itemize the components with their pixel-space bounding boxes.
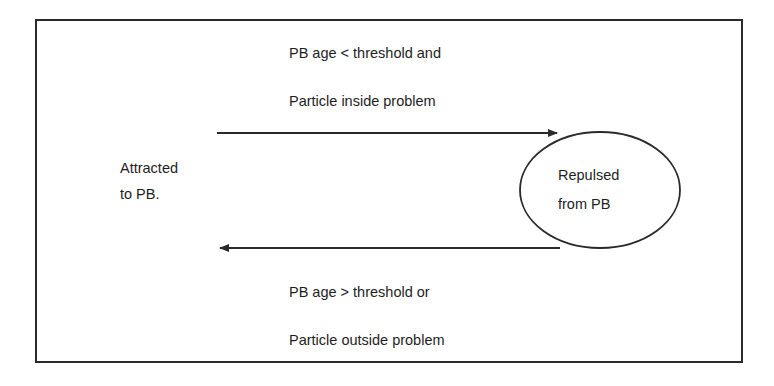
state-attracted-label-line: Attracted xyxy=(120,155,178,181)
state-attracted-label-line: to PB. xyxy=(120,181,178,207)
state-repulsed-label-line: from PB xyxy=(558,190,619,219)
transition-condition-line: PB age < threshold and xyxy=(289,44,441,62)
state-attracted: Attracted to PB. xyxy=(120,155,178,207)
transition-condition-line: Particle inside problem xyxy=(289,92,436,110)
transition-condition-line: PB age > threshold or xyxy=(289,283,430,301)
state-repulsed-label-line: Repulsed xyxy=(558,161,619,190)
state-repulsed: Repulsed from PB xyxy=(558,161,619,219)
transition-condition-line: Particle outside problem xyxy=(289,331,445,349)
